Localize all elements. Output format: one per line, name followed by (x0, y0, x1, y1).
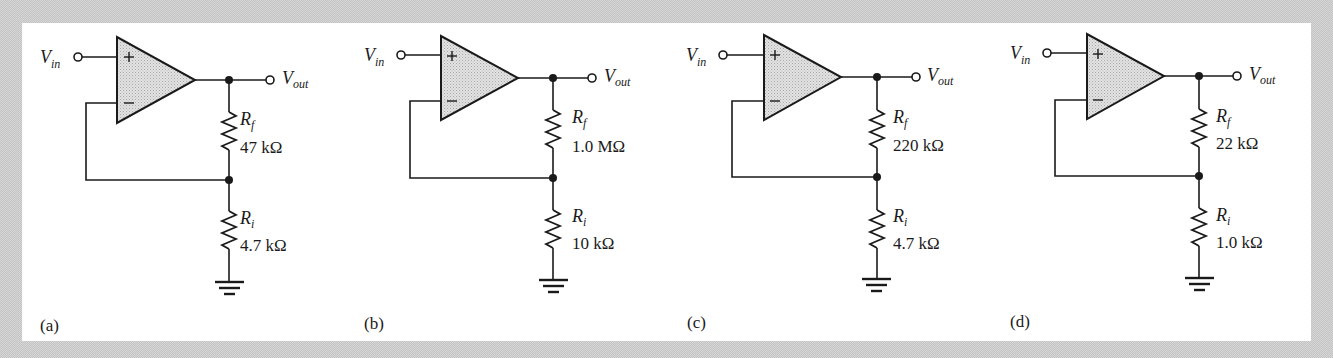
ri-value: 4.7 kΩ (893, 234, 940, 253)
opamp-triangle (1087, 34, 1164, 119)
ri-symbol: Ri (571, 206, 586, 229)
rf-symbol: Rf (1215, 106, 1232, 129)
circuit-diagrams: Vin Vout Rf 47 kΩ Ri 4.7 kΩ (a (0, 0, 1333, 358)
rf-value: 22 kΩ (1216, 134, 1258, 153)
ri-resistor (222, 211, 236, 249)
ri-resistor (870, 210, 884, 248)
ri-resistor (546, 210, 560, 248)
ground-icon (1185, 278, 1214, 290)
vin-label: Vin (1010, 43, 1030, 67)
feedback-wire (1055, 100, 1199, 176)
ri-symbol: Ri (892, 206, 907, 229)
ri-symbol: Ri (1215, 205, 1230, 228)
rf-symbol: Rf (571, 107, 588, 130)
circuit-c: Vin Vout Rf 220 kΩ Ri 4.7 kΩ (c) (686, 35, 954, 332)
vin-label: Vin (686, 45, 706, 69)
ri-value: 10 kΩ (572, 234, 614, 253)
vin-terminal (397, 51, 405, 59)
circuit-d: Vin Vout Rf 22 kΩ Ri 1.0 kΩ (d) (1010, 34, 1276, 331)
rf-resistor (870, 110, 884, 148)
vout-terminal (588, 74, 596, 82)
caption-d: (d) (1010, 312, 1030, 331)
rf-value: 220 kΩ (893, 136, 944, 155)
rf-resistor (222, 112, 236, 150)
rf-resistor (546, 110, 560, 148)
opamp-triangle (117, 37, 195, 123)
caption-a: (a) (40, 316, 59, 335)
ri-resistor (1192, 208, 1206, 246)
caption-c: (c) (687, 313, 706, 332)
vin-label: Vin (40, 47, 60, 71)
vout-terminal (1233, 72, 1241, 80)
vin-label: Vin (364, 45, 384, 69)
circuit-b: Vin Vout Rf 1.0 MΩ Ri 10 kΩ (b) (364, 36, 631, 333)
ground-icon (862, 279, 891, 291)
vin-terminal (719, 51, 727, 59)
caption-b: (b) (364, 314, 384, 333)
rf-symbol: Rf (239, 109, 256, 132)
vout-terminal (266, 76, 274, 84)
opamp-triangle (441, 36, 518, 120)
ground-icon (539, 280, 568, 292)
ground-icon (215, 282, 244, 294)
vout-label: Vout (927, 65, 954, 88)
rf-value: 47 kΩ (240, 138, 282, 157)
feedback-wire (410, 101, 553, 178)
ri-value: 4.7 kΩ (240, 236, 287, 255)
vout-label: Vout (282, 68, 309, 91)
vin-terminal (74, 53, 82, 61)
vout-label: Vout (604, 66, 631, 89)
feedback-wire (86, 103, 229, 180)
ri-symbol: Ri (239, 208, 254, 231)
vout-label: Vout (1249, 64, 1276, 87)
rf-resistor (1192, 109, 1206, 147)
circuit-a: Vin Vout Rf 47 kΩ Ri 4.7 kΩ (a (40, 37, 309, 335)
vin-terminal (1043, 49, 1051, 57)
vout-terminal (912, 73, 920, 81)
ri-value: 1.0 kΩ (1216, 233, 1263, 252)
opamp-triangle (764, 35, 841, 120)
rf-value: 1.0 MΩ (572, 137, 625, 156)
feedback-wire (732, 101, 877, 177)
rf-symbol: Rf (892, 107, 909, 130)
